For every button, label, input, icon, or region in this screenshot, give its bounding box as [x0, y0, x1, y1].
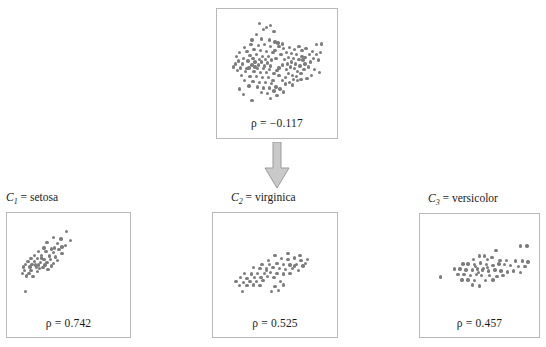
scatter-point: [461, 262, 464, 265]
scatter-point: [266, 275, 269, 278]
scatter-point: [252, 48, 255, 51]
scatter-point: [37, 250, 40, 253]
scatter-point: [275, 69, 278, 72]
scatter-point: [293, 256, 296, 259]
scatter-point: [304, 262, 307, 265]
scatter-point: [256, 272, 259, 275]
simpsons-paradox-figure: ρ = −0.117 C1 = setosa ρ = 0.742 C2 = vi…: [0, 0, 546, 347]
scatter-point: [52, 251, 55, 254]
scatter-point: [491, 278, 494, 281]
scatter-point: [503, 263, 506, 266]
cluster-2-equals: =: [246, 191, 253, 203]
scatter-point: [282, 263, 285, 266]
scatter-point: [268, 86, 271, 89]
scatter-point: [266, 92, 269, 95]
scatter-point: [262, 28, 265, 31]
scatter-point: [31, 275, 34, 278]
scatter-point: [240, 74, 243, 77]
scatter-point: [310, 74, 313, 77]
scatter-point: [265, 50, 268, 53]
cluster-2-symbol: C: [231, 191, 239, 203]
scatter-point: [286, 258, 289, 261]
scatter-point: [269, 271, 272, 274]
cluster-3-label: C3 = versicolor: [428, 192, 498, 207]
scatter-point: [315, 43, 318, 46]
scatter-point: [277, 74, 280, 77]
scatter-point: [270, 58, 273, 61]
scatter-point: [245, 50, 248, 53]
scatter-point: [268, 38, 271, 41]
scatter-point: [287, 72, 290, 75]
scatter-point: [284, 76, 287, 79]
scatter-point: [514, 259, 517, 262]
scatter-point: [261, 279, 264, 282]
scatter-point: [236, 69, 239, 72]
cluster-2-rho-label: ρ = 0.525: [213, 317, 337, 329]
scatter-point: [262, 86, 265, 89]
scatter-point: [53, 246, 56, 249]
scatter-point: [466, 262, 469, 265]
scatter-point: [250, 38, 253, 41]
scatter-point: [282, 272, 285, 275]
scatter-point: [260, 263, 263, 266]
scatter-point: [245, 284, 248, 287]
scatter-point: [249, 43, 252, 46]
scatter-point: [263, 272, 266, 275]
scatter-point: [69, 239, 72, 242]
cluster-3-symbol: C: [428, 192, 436, 204]
scatter-point: [512, 269, 515, 272]
scatter-point: [38, 267, 41, 270]
scatter-point: [234, 280, 237, 283]
scatter-point: [523, 265, 526, 268]
scatter-point: [306, 258, 309, 261]
scatter-point: [288, 46, 291, 49]
scatter-point: [293, 48, 296, 51]
scatter-point: [299, 259, 302, 262]
scatter-point: [286, 252, 289, 255]
scatter-point: [268, 68, 271, 71]
scatter-point: [484, 279, 487, 282]
scatter-point: [252, 266, 255, 269]
scatter-point: [471, 268, 474, 271]
scatter-point: [472, 258, 475, 261]
scatter-point: [305, 77, 308, 80]
scatter-point: [300, 49, 303, 52]
scatter-point: [291, 74, 294, 77]
scatter-point: [299, 78, 302, 81]
scatter-point: [258, 22, 261, 25]
scatter-point: [274, 57, 277, 60]
scatter-point: [260, 37, 263, 40]
scatter-point: [258, 284, 261, 287]
scatter-point: [265, 269, 268, 272]
scatter-point: [460, 278, 463, 281]
scatter-point: [497, 262, 500, 265]
scatter-point: [495, 275, 498, 278]
scatter-point: [50, 264, 53, 267]
scatter-point: [487, 269, 490, 272]
scatter-point: [292, 78, 295, 81]
scatter-point: [297, 58, 300, 61]
scatter-point: [36, 257, 39, 260]
scatter-point: [243, 46, 246, 49]
scatter-point: [248, 75, 251, 78]
scatter-point: [519, 271, 522, 274]
scatter-point: [271, 79, 274, 82]
scatter-point: [49, 258, 52, 261]
scatter-point: [525, 244, 528, 247]
scatter-point: [278, 267, 281, 270]
scatter-point: [255, 75, 258, 78]
scatter-point: [270, 82, 273, 85]
scatter-point: [272, 276, 275, 279]
scatter-point: [506, 270, 509, 273]
scatter-point: [318, 71, 321, 74]
scatter-point: [482, 267, 485, 270]
scatter-point: [260, 60, 263, 63]
scatter-point: [272, 72, 275, 75]
scatter-point: [242, 57, 245, 60]
scatter-point: [252, 283, 255, 286]
scatter-point: [281, 79, 284, 82]
scatter-point: [239, 66, 242, 69]
scatter-point: [250, 272, 253, 275]
scatter-point: [253, 65, 256, 68]
scatter-point: [281, 63, 284, 66]
